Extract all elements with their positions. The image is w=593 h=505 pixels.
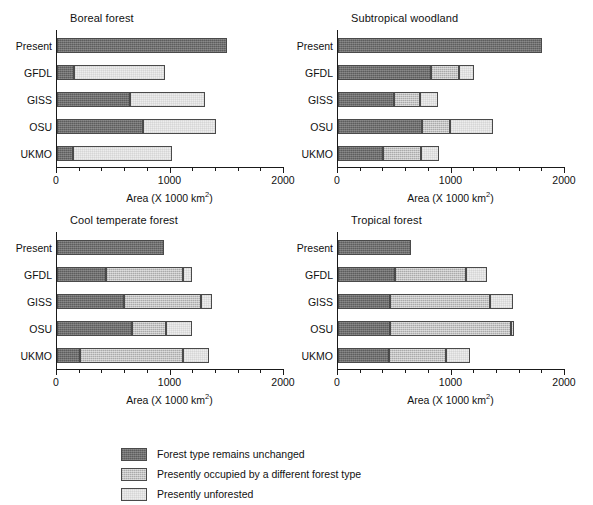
x-axis-tick: [192, 369, 193, 373]
x-axis-tick: [215, 369, 216, 373]
category-label-gfdl: GFDL: [0, 67, 52, 79]
x-axis-tick: [473, 369, 474, 373]
x-axis-tick: [382, 167, 383, 171]
legend-label: Presently occupied by a different forest…: [157, 467, 361, 482]
bar-segment-s0: [338, 321, 390, 336]
category-label-present: Present: [0, 40, 52, 52]
category-label-osu: OSU: [0, 121, 52, 133]
x-axis-tick: [147, 369, 148, 373]
bar-segment-s2: [466, 267, 486, 282]
category-label-giss: GISS: [277, 94, 333, 106]
x-axis-tick: [564, 369, 565, 375]
category-label-ukmo: UKMO: [0, 148, 52, 160]
x-axis-title-text: Area (X 1000 km: [407, 394, 486, 406]
x-axis-tick: [451, 369, 452, 375]
x-axis-title: Area (X 1000 km2): [407, 392, 493, 406]
bar-segment-s0: [57, 65, 74, 80]
x-axis-tick: [337, 369, 338, 375]
bar-segment-s0: [57, 294, 124, 309]
x-axis-tick: [147, 167, 148, 171]
bar-segment-s1: [395, 267, 467, 282]
legend-swatch-icon: [121, 448, 147, 461]
x-axis-tick: [260, 369, 261, 373]
chart-title: Subtropical woodland: [351, 12, 458, 24]
category-label-gfdl: GFDL: [0, 269, 52, 281]
bar-segment-s0: [338, 294, 390, 309]
x-axis-tick: [405, 167, 406, 171]
bar-segment-s0: [338, 240, 411, 255]
x-axis-tick: [451, 167, 452, 173]
bar-segment-s0: [57, 119, 143, 134]
chart-title: Tropical forest: [351, 214, 422, 226]
category-label-giss: GISS: [0, 296, 52, 308]
bar-segment-s0: [57, 92, 130, 107]
bar-segment-s2: [490, 294, 513, 309]
x-axis-tick: [101, 369, 102, 373]
bar-segment-s0: [57, 348, 80, 363]
x-axis-title-close: ): [209, 192, 213, 204]
bar-segment-s0: [57, 321, 132, 336]
x-axis-tick: [541, 167, 542, 171]
x-axis-tick: [56, 369, 57, 375]
bar-segment-s0: [338, 146, 383, 161]
x-axis-tick-label: 0: [334, 376, 340, 388]
x-axis-tick: [238, 167, 239, 171]
bar-segment-s1: [390, 294, 490, 309]
x-axis-tick-label: 2000: [271, 174, 294, 186]
category-label-osu: OSU: [277, 121, 333, 133]
category-label-osu: OSU: [0, 323, 52, 335]
bar-segment-s2: [201, 294, 212, 309]
x-axis-tick: [124, 369, 125, 373]
x-axis-tick: [382, 369, 383, 373]
x-axis-tick: [124, 167, 125, 171]
bar-segment-s2: [74, 65, 165, 80]
bar-segment-s2: [183, 267, 192, 282]
bar-segment-s1: [106, 267, 183, 282]
x-axis-tick-label: 0: [334, 174, 340, 186]
category-label-present: Present: [0, 242, 52, 254]
x-axis-title-close: ): [490, 192, 494, 204]
category-label-ukmo: UKMO: [0, 350, 52, 362]
bar-segment-s2: [446, 348, 470, 363]
x-axis-tick: [56, 167, 57, 173]
x-axis-tick: [541, 369, 542, 373]
x-axis-tick: [337, 167, 338, 173]
category-label-giss: GISS: [0, 94, 52, 106]
x-axis-tick: [473, 167, 474, 171]
x-axis-tick: [215, 167, 216, 171]
category-label-osu: OSU: [277, 323, 333, 335]
bar-segment-s2: [421, 146, 439, 161]
x-axis-title: Area (X 1000 km2): [126, 190, 212, 204]
x-axis-tick-label: 2000: [271, 376, 294, 388]
bar-segment-s2: [420, 92, 438, 107]
bar-segment-s0: [338, 119, 422, 134]
bar-segment-s1: [132, 321, 166, 336]
chart-title: Boreal forest: [70, 12, 134, 24]
category-label-ukmo: UKMO: [277, 148, 333, 160]
bar-segment-s2: [143, 119, 216, 134]
bar-segment-s2: [459, 65, 474, 80]
bar-segment-s2: [511, 321, 514, 336]
bar-segment-s0: [338, 65, 431, 80]
x-axis-tick-label: 0: [53, 174, 59, 186]
x-axis-tick: [428, 369, 429, 373]
legend-label: Presently unforested: [157, 487, 253, 502]
category-label-gfdl: GFDL: [277, 269, 333, 281]
bar-segment-s1: [431, 65, 459, 80]
x-axis-tick: [564, 167, 565, 173]
bar-segment-s1: [390, 321, 510, 336]
x-axis-title: Area (X 1000 km2): [126, 392, 212, 406]
x-axis-tick: [170, 369, 171, 375]
x-axis-tick-label: 1000: [439, 174, 462, 186]
bar-segment-s0: [338, 38, 542, 53]
x-axis-tick-label: 0: [53, 376, 59, 388]
x-axis-tick-label: 2000: [552, 174, 575, 186]
bar-segment-s1: [422, 119, 450, 134]
x-axis-tick: [519, 369, 520, 373]
bar-segment-s1: [389, 348, 446, 363]
bar-segment-s2: [130, 92, 205, 107]
category-label-giss: GISS: [277, 296, 333, 308]
x-axis-tick-label: 1000: [158, 376, 181, 388]
x-axis-tick: [405, 369, 406, 373]
bar-segment-s1: [383, 146, 420, 161]
